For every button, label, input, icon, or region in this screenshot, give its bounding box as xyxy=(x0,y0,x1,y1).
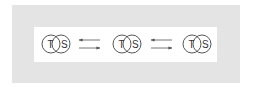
label-t-2: T xyxy=(119,39,125,50)
label-s-3: S xyxy=(202,39,209,50)
label-s-2: S xyxy=(132,39,139,50)
venn-pair-2: T S xyxy=(113,35,141,53)
label-s-1: S xyxy=(61,39,68,50)
venn-pair-1: T S xyxy=(42,35,70,53)
venn-pair-3: T S xyxy=(183,35,211,53)
equilibrium-arrows-2 xyxy=(151,40,172,48)
equilibrium-arrows-1 xyxy=(79,40,100,48)
label-t-3: T xyxy=(189,39,195,50)
equilibrium-diagram: T S T S T S xyxy=(0,0,253,87)
label-t-1: T xyxy=(48,39,54,50)
diagram-canvas: T S T S T S xyxy=(0,0,253,87)
